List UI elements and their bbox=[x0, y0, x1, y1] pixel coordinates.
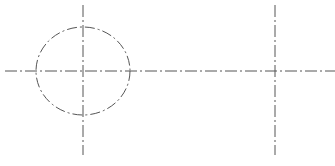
drawing-background bbox=[0, 0, 335, 166]
technical-drawing-canvas bbox=[0, 0, 335, 166]
